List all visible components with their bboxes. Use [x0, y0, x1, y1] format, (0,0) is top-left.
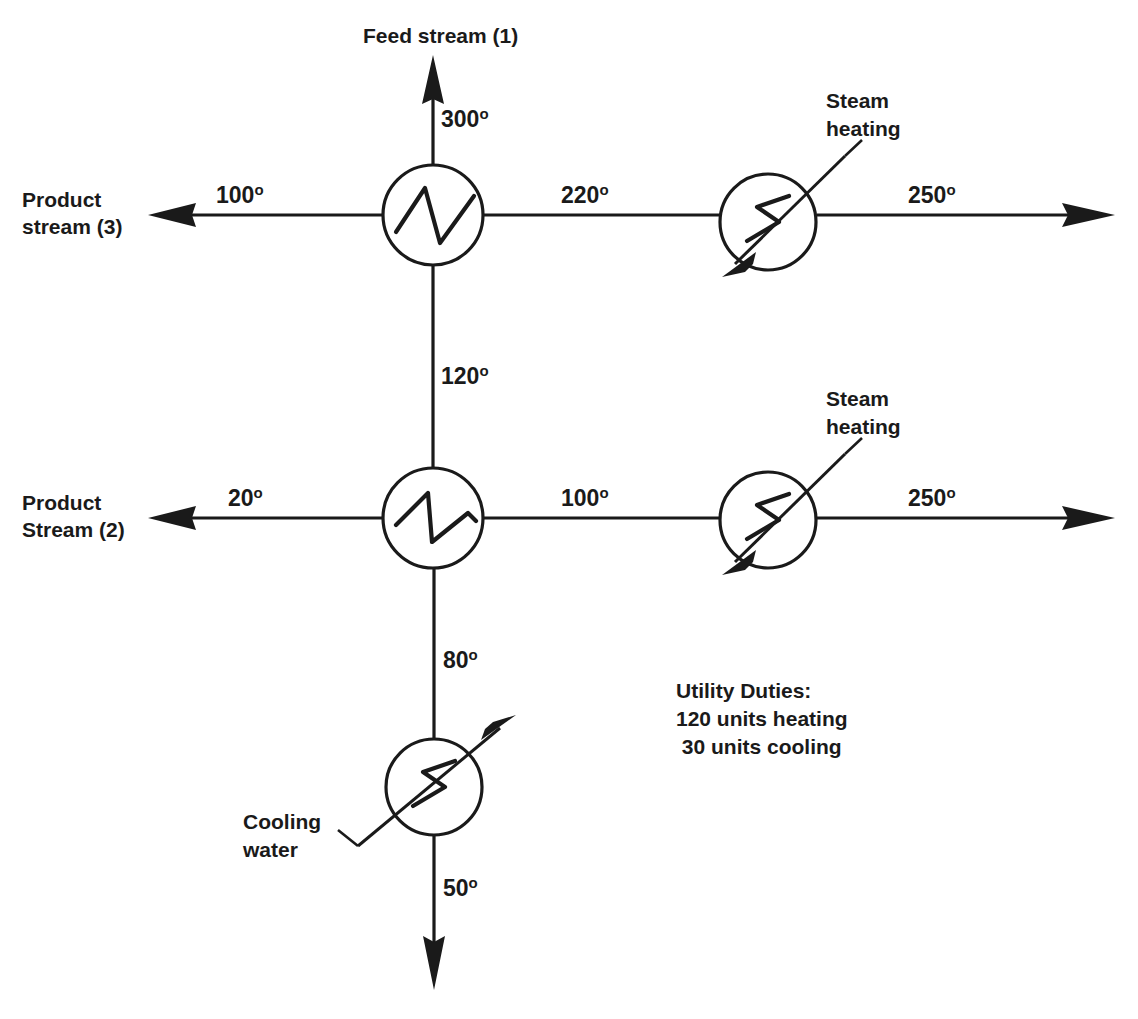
steam-heater-1-body[interactable]	[720, 174, 816, 270]
temp-lower-vertical: 80o	[443, 646, 478, 674]
temp-branch-top-out: 220o	[561, 181, 609, 209]
pfd-canvas: Feed stream (1) Product stream (3) Produ…	[0, 0, 1138, 1019]
steam-heater-1-label-line1: Steam	[826, 89, 889, 112]
temp-mid-final: 250o	[908, 484, 956, 512]
product3-label-line2: stream (3)	[22, 215, 122, 238]
steam-heater-1-label-line2: heating	[826, 117, 901, 140]
arrowhead-product3	[148, 203, 196, 227]
temp-product3: 100o	[216, 181, 264, 209]
arrowhead-top-outlet	[1062, 203, 1115, 227]
cooler-label-line2: water	[242, 838, 298, 861]
steam-heater-2-label-line1: Steam	[826, 387, 889, 410]
temp-branch-mid-out: 100o	[561, 484, 609, 512]
process-flow-diagram: Feed stream (1) Product stream (3) Produ…	[0, 0, 1138, 1019]
temp-top-final: 250o	[908, 181, 956, 209]
steam-heater-2-leader	[845, 438, 862, 454]
product3-label-line1: Product	[22, 188, 101, 211]
feed-stream-label: Feed stream (1)	[363, 24, 518, 47]
heat-exchanger-2-body[interactable]	[383, 468, 483, 568]
cooler-leader	[338, 830, 358, 846]
utility-duties-heading: Utility Duties:	[676, 679, 811, 702]
cooler-label-line1: Cooling	[243, 810, 321, 833]
utility-duties-heating: 120 units heating	[676, 707, 848, 730]
temp-feed: 300o	[441, 105, 489, 133]
steam-heater-2-body[interactable]	[720, 472, 816, 568]
arrowhead-cooler-outlet	[423, 936, 445, 990]
steam-heater-1-leader	[845, 140, 862, 156]
product2-label-line2: Stream (2)	[22, 518, 125, 541]
temp-product2: 20o	[228, 484, 263, 512]
arrowhead-feed-stream	[422, 55, 444, 104]
temp-mid-vertical: 120o	[441, 362, 489, 390]
product2-label-line1: Product	[22, 491, 101, 514]
arrowhead-product2	[148, 506, 196, 530]
steam-heater-2-label-line2: heating	[826, 415, 901, 438]
temp-cooler-outlet: 50o	[443, 874, 478, 902]
arrowhead-mid-outlet	[1062, 506, 1115, 530]
cooler-utility-arrowhead	[481, 715, 516, 740]
utility-duties-cooling: 30 units cooling	[676, 735, 842, 758]
